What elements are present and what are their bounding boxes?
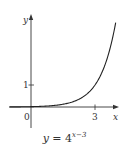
y-tick-label-1: 1 [23,80,29,90]
x-axis-label: x [113,112,118,122]
origin-label: 0 [24,112,30,122]
caption-exponent: x−3 [72,131,86,139]
y-axis-arrow-icon [29,14,33,20]
function-curve [10,23,116,107]
x-axis-arrow-icon [113,105,119,109]
x-tick-label-3: 3 [92,112,98,122]
function-caption: y = 4x−3 [0,131,129,145]
caption-equals-base: = 4 [49,132,72,145]
y-axis-label: y [22,15,29,25]
